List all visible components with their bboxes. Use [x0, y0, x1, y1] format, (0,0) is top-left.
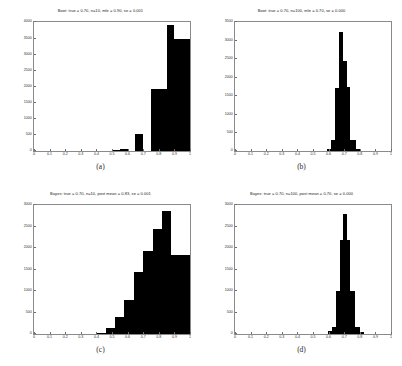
y-axis-tick-label: 2000	[225, 76, 235, 80]
y-axis-tick-mark	[34, 54, 36, 55]
y-axis-tick-mark	[235, 226, 237, 227]
x-axis-tick-mark	[282, 149, 283, 151]
x-axis-tick-label: 0	[234, 334, 236, 340]
x-axis-tick-mark	[375, 149, 376, 151]
panel-c-bars	[34, 205, 190, 334]
x-axis-tick-label: 0.6	[125, 151, 130, 157]
y-axis-tick-label: 2000	[24, 246, 34, 250]
x-axis-tick-mark	[329, 332, 330, 334]
panel-d-caption: (d)	[201, 345, 402, 354]
x-axis-tick-mark	[344, 149, 345, 151]
y-axis-tick-mark	[34, 247, 36, 248]
x-axis-tick-mark	[65, 332, 66, 334]
panel-b-axes: 050010001500200025003000350000.10.20.30.…	[235, 22, 391, 151]
x-axis-tick-mark	[251, 149, 252, 151]
x-axis-tick-label: 0.3	[78, 334, 83, 340]
panel-d-bars	[235, 205, 391, 334]
y-axis-tick-mark	[235, 95, 237, 96]
x-axis-tick-label: 0.2	[63, 334, 68, 340]
x-axis-tick-label: 0.4	[94, 334, 99, 340]
x-axis-tick-mark	[360, 332, 361, 334]
figure-panel-grid: Boot: true = 0.70, n=10, mle = 0.90, se …	[0, 0, 402, 366]
x-axis-tick-mark	[34, 332, 35, 334]
panel-d-axes: 05001000150020002500300000.10.20.30.40.5…	[235, 205, 391, 334]
x-axis-tick-label: 0.4	[295, 334, 300, 340]
panel-a: Boot: true = 0.70, n=10, mle = 0.90, se …	[0, 0, 201, 183]
x-axis-tick-label: 0.5	[110, 334, 115, 340]
x-axis-tick-label: 0.9	[373, 151, 378, 157]
x-axis-tick-mark	[65, 149, 66, 151]
x-axis-tick-label: 1	[390, 334, 392, 340]
x-axis-tick-label: 0.9	[373, 334, 378, 340]
y-axis-tick-label: 1500	[225, 94, 235, 98]
y-axis-tick-label: 1000	[225, 289, 235, 293]
histogram-bar	[153, 229, 162, 334]
histogram-bar	[167, 25, 175, 151]
x-axis-tick-label: 0.5	[311, 334, 316, 340]
y-axis-tick-label: 500	[227, 311, 235, 315]
x-axis-tick-label: 0.6	[326, 334, 331, 340]
y-axis-tick-mark	[235, 290, 237, 291]
y-axis-tick-mark	[34, 86, 36, 87]
histogram-bar	[115, 317, 124, 334]
y-axis-tick-mark	[235, 269, 237, 270]
x-axis-tick-label: 0.8	[156, 334, 161, 340]
x-axis-tick-label: 0	[33, 151, 35, 157]
x-axis-tick-mark	[34, 149, 35, 151]
x-axis-tick-label: 0.7	[141, 151, 146, 157]
x-axis-tick-mark	[112, 149, 113, 151]
y-axis-tick-label: 2500	[24, 225, 34, 229]
y-axis-tick-mark	[235, 40, 237, 41]
x-axis-tick-label: 0.5	[311, 151, 316, 157]
histogram-bar	[143, 251, 152, 334]
x-axis-tick-label: 0.8	[357, 334, 362, 340]
x-axis-tick-mark	[190, 149, 191, 151]
x-axis-tick-label: 0.7	[342, 151, 347, 157]
x-axis-tick-mark	[266, 149, 267, 151]
panel-c: Bayes: true = 0.70, n=10, post mean = 0.…	[0, 183, 201, 366]
panel-d: Bayes: true = 0.70, n=100, post mean = 0…	[201, 183, 402, 366]
x-axis-tick-label: 0.9	[172, 151, 177, 157]
x-axis-tick-label: 0	[234, 151, 236, 157]
x-axis-tick-mark	[50, 149, 51, 151]
x-axis-tick-mark	[235, 149, 236, 151]
x-axis-tick-label: 0.3	[279, 151, 284, 157]
x-axis-tick-label: 0.3	[78, 151, 83, 157]
x-axis-tick-mark	[96, 332, 97, 334]
x-axis-tick-mark	[112, 332, 113, 334]
x-axis-tick-mark	[50, 332, 51, 334]
x-axis-tick-label: 1	[390, 151, 392, 157]
x-axis-tick-label: 0.6	[326, 151, 331, 157]
x-axis-tick-label: 0.1	[47, 151, 52, 157]
x-axis-tick-label: 0.5	[110, 151, 115, 157]
x-axis-tick-mark	[391, 149, 392, 151]
x-axis-tick-mark	[344, 332, 345, 334]
y-axis-tick-mark	[34, 134, 36, 135]
panel-c-axes: 05001000150020002500300000.10.20.30.40.5…	[34, 205, 190, 334]
y-axis-tick-mark	[34, 118, 36, 119]
x-axis-tick-label: 0.6	[125, 334, 130, 340]
y-axis-tick-mark	[34, 312, 36, 313]
x-axis-tick-mark	[282, 332, 283, 334]
x-axis-tick-mark	[251, 332, 252, 334]
x-axis-tick-mark	[81, 149, 82, 151]
histogram-bar	[124, 300, 133, 334]
x-axis-tick-label: 0.1	[47, 334, 52, 340]
y-axis-tick-label: 3000	[24, 52, 34, 56]
x-axis-tick-mark	[313, 332, 314, 334]
panel-c-plot-area: 05001000150020002500300000.10.20.30.40.5…	[33, 204, 191, 335]
histogram-bar	[151, 89, 167, 151]
y-axis-tick-label: 500	[26, 311, 34, 315]
x-axis-tick-label: 0.8	[156, 151, 161, 157]
x-axis-tick-mark	[375, 332, 376, 334]
x-axis-tick-mark	[391, 332, 392, 334]
x-axis-tick-label: 0.4	[94, 151, 99, 157]
y-axis-tick-label: 3500	[225, 20, 235, 24]
y-axis-tick-mark	[235, 77, 237, 78]
histogram-bar	[174, 39, 190, 151]
y-axis-tick-mark	[34, 38, 36, 39]
y-axis-tick-label: 3000	[225, 39, 235, 43]
y-axis-tick-label: 4000	[24, 20, 34, 24]
y-axis-tick-mark	[235, 132, 237, 133]
x-axis-tick-mark	[143, 149, 144, 151]
